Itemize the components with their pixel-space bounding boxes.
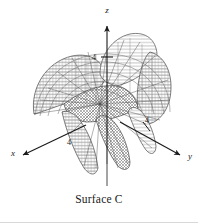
- figure-caption: Surface C: [0, 193, 198, 205]
- plot-area: 4 z 4 x 4 y: [0, 0, 198, 196]
- x-axis-label: x: [10, 148, 15, 158]
- y-axis-tick-label: 4: [145, 116, 149, 125]
- surface-wireframe-plot: 4 z 4 x 4 y: [0, 0, 198, 196]
- z-axis-tick-label: 4: [92, 53, 96, 62]
- surface-figure: 4 z 4 x 4 y Surface C: [0, 0, 198, 223]
- x-axis-tick-label: 4: [67, 138, 71, 147]
- y-axis-label: y: [187, 151, 192, 161]
- z-axis-label: z: [104, 5, 109, 15]
